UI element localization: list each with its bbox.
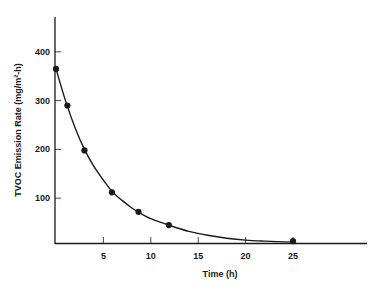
data-point	[53, 66, 59, 72]
x-tick-label: 20	[241, 251, 251, 261]
data-markers	[53, 66, 296, 244]
data-point	[166, 222, 172, 228]
x-tick-label: 5	[101, 251, 106, 261]
x-tick-label: 15	[193, 251, 203, 261]
y-tick-label: 300	[35, 96, 50, 106]
y-tick-label: 200	[35, 144, 50, 154]
x-tick-label: 25	[288, 251, 298, 261]
x-tick-label: 10	[146, 251, 156, 261]
y-tick-label: 400	[35, 47, 50, 57]
y-axis-label: TVOC Emission Rate (mg/m²-h)	[13, 63, 23, 197]
chart: 100200300400 510152025 Time (h) TVOC Emi…	[0, 0, 383, 294]
x-axis-label: Time (h)	[203, 269, 238, 279]
data-point	[81, 147, 87, 153]
data-point	[109, 189, 115, 195]
data-point	[135, 209, 141, 215]
fitted-curve	[56, 69, 293, 242]
y-tick-label: 100	[35, 193, 50, 203]
data-point	[290, 238, 296, 244]
data-point	[64, 102, 70, 108]
